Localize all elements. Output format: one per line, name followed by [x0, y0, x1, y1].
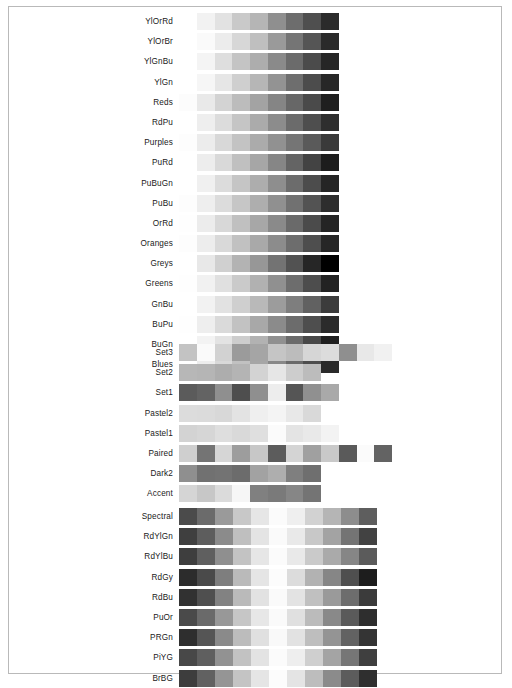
colormap-swatch	[305, 609, 323, 626]
colormap-swatch	[323, 569, 341, 586]
colormap-swatch	[215, 94, 233, 111]
colormap-swatch-bar	[179, 649, 377, 666]
colormap-swatch	[232, 445, 250, 462]
colormap-label: PuRd	[152, 154, 179, 171]
colormap-swatch	[232, 13, 250, 30]
colormap-swatch	[251, 629, 269, 646]
colormap-swatch	[250, 485, 268, 502]
colormap-swatch	[286, 114, 304, 131]
colormap-swatch	[359, 569, 377, 586]
colormap-swatch	[215, 465, 233, 482]
colormap-swatch	[250, 405, 268, 422]
colormap-label: Purples	[144, 134, 179, 151]
colormap-swatch-bar	[179, 134, 339, 151]
qualitative-bars-container: Set3Set2Set1Pastel2Pastel1PairedDark2Acc…	[179, 344, 501, 506]
colormap-swatch	[179, 134, 197, 151]
colormap-swatch	[321, 33, 339, 50]
colormap-swatch-bar	[179, 235, 339, 252]
colormap-swatch	[303, 74, 321, 91]
colormap-swatch	[323, 508, 341, 525]
colormap-swatch	[197, 629, 215, 646]
colormap-swatch	[250, 154, 268, 171]
colormap-label: PiYG	[153, 649, 179, 666]
colormap-swatch	[215, 344, 233, 361]
colormap-swatch	[215, 296, 233, 313]
colormap-row: Greys	[179, 255, 501, 272]
colormap-swatch	[321, 235, 339, 252]
colormap-swatch	[250, 74, 268, 91]
colormap-row: PiYG	[179, 649, 501, 666]
colormap-swatch	[197, 175, 215, 192]
colormap-label: Spectral	[142, 508, 179, 525]
colormap-label: BuPu	[152, 316, 179, 333]
colormap-swatch	[374, 445, 392, 462]
colormap-swatch	[359, 589, 377, 606]
colormap-swatch	[323, 629, 341, 646]
colormap-swatch	[287, 629, 305, 646]
colormap-label: YlOrRd	[145, 13, 179, 30]
colormap-swatch	[179, 316, 197, 333]
colormap-swatch	[197, 405, 215, 422]
colormap-swatch	[250, 465, 268, 482]
colormap-swatch	[179, 405, 197, 422]
colormap-swatch	[286, 235, 304, 252]
colormap-swatch	[268, 53, 286, 70]
colormap-swatch	[303, 235, 321, 252]
colormap-swatch	[268, 13, 286, 30]
colormap-label: GnBu	[151, 296, 179, 313]
colormap-swatch	[197, 215, 215, 232]
colormap-swatch	[286, 364, 304, 381]
colormap-swatch	[250, 175, 268, 192]
colormap-row: Set3	[179, 344, 501, 361]
colormap-swatch	[286, 134, 304, 151]
colormap-swatch	[323, 649, 341, 666]
colormap-swatch	[303, 195, 321, 212]
colormap-swatch	[179, 485, 197, 502]
colormap-swatch	[268, 33, 286, 50]
colormap-swatch	[232, 384, 250, 401]
colormap-swatch	[321, 425, 339, 442]
colormap-swatch	[197, 589, 215, 606]
colormap-row: PuOr	[179, 609, 501, 626]
colormap-swatch	[232, 485, 250, 502]
colormap-swatch	[303, 114, 321, 131]
colormap-row: BuPu	[179, 316, 501, 333]
colormap-swatch	[303, 134, 321, 151]
colormap-swatch-bar	[179, 629, 377, 646]
colormap-swatch	[233, 508, 251, 525]
colormap-label: PuBu	[152, 195, 179, 212]
colormap-swatch-bar	[179, 528, 377, 545]
colormap-swatch	[215, 425, 233, 442]
colormap-swatch	[179, 255, 197, 272]
colormap-swatch	[268, 405, 286, 422]
colormap-swatch	[215, 485, 233, 502]
colormap-swatch	[232, 114, 250, 131]
colormap-swatch	[197, 13, 215, 30]
colormap-swatch-bar	[179, 405, 321, 422]
colormap-swatch	[287, 609, 305, 626]
colormap-swatch	[321, 13, 339, 30]
colormap-swatch	[321, 154, 339, 171]
colormap-swatch	[250, 255, 268, 272]
colormap-swatch	[286, 384, 304, 401]
colormap-swatch	[215, 235, 233, 252]
colormap-swatch	[321, 316, 339, 333]
colormap-swatch	[215, 134, 233, 151]
colormap-swatch	[303, 485, 321, 502]
colormap-swatch	[250, 33, 268, 50]
colormap-swatch	[341, 609, 359, 626]
colormap-swatch-bar	[179, 175, 339, 192]
colormap-swatch	[323, 609, 341, 626]
colormap-swatch	[269, 548, 287, 565]
colormap-swatch-bar	[179, 609, 377, 626]
colormap-swatch	[179, 114, 197, 131]
colormap-swatch	[303, 384, 321, 401]
colormap-label: Pastel1	[145, 425, 179, 442]
colormap-swatch	[341, 548, 359, 565]
colormap-swatch-bar	[179, 53, 339, 70]
colormap-swatch	[303, 425, 321, 442]
colormap-swatch	[303, 316, 321, 333]
colormap-swatch-bar	[179, 364, 321, 381]
colormap-swatch	[233, 649, 251, 666]
colormap-swatch	[215, 649, 233, 666]
